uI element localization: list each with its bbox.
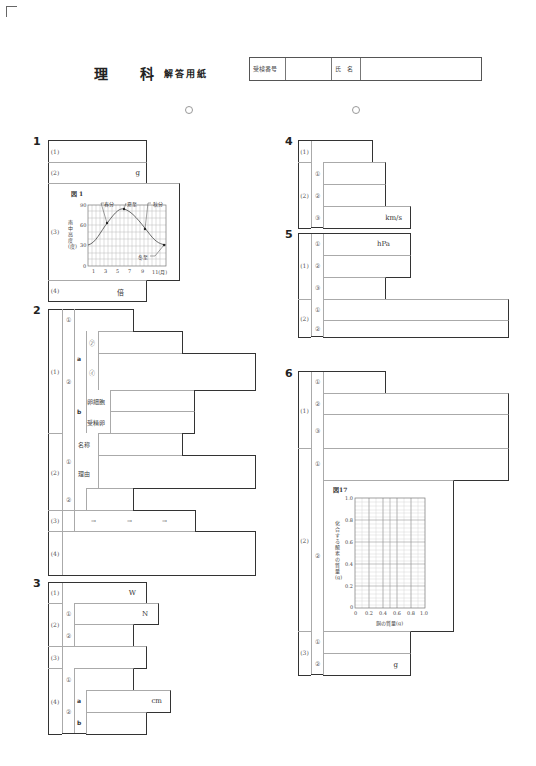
y-tick-0.6: 0.6 bbox=[345, 539, 353, 545]
x-tick-0.8: 0.8 bbox=[407, 610, 415, 616]
x-tick-0.6: 0.6 bbox=[393, 610, 401, 616]
y-tick-0: 0 bbox=[350, 604, 353, 610]
x-tick-0.4: 0.4 bbox=[379, 610, 387, 616]
y-tick-0.8: 0.8 bbox=[345, 517, 353, 523]
figure-17-xlabel: 銅の質量(g) bbox=[376, 619, 403, 626]
y-tick-0.4: 0.4 bbox=[345, 561, 353, 567]
y-tick-1.0: 1.0 bbox=[345, 495, 353, 501]
y-tick-0.2: 0.2 bbox=[345, 583, 353, 589]
x-tick-1.0: 1.0 bbox=[420, 610, 428, 616]
x-tick-0.2: 0.2 bbox=[365, 610, 373, 616]
x-tick-0: 0 bbox=[354, 610, 357, 616]
figure-17-graph-grid[interactable] bbox=[0, 0, 536, 766]
